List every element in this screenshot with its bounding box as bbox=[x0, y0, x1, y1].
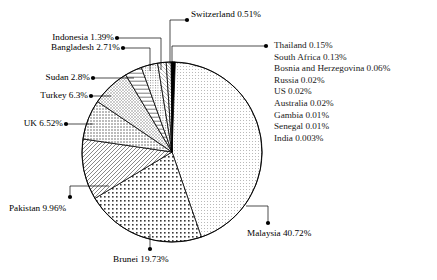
pie-slices bbox=[82, 62, 262, 242]
callout-label-switzerland: Switzerland 0.51% bbox=[191, 9, 261, 20]
leader-switzerland bbox=[170, 20, 186, 64]
small-slice-label-list: Thailand 0.15% South Africa 0.13% Bosnia… bbox=[274, 40, 390, 144]
leader-smalllist bbox=[172, 46, 265, 62]
pie-chart-figure: Switzerland 0.51% Indonesia 1.39% Bangla… bbox=[0, 0, 437, 280]
small-slice-label-india: India 0.003% bbox=[274, 133, 390, 145]
dot-turkey bbox=[89, 94, 93, 98]
small-slice-label-thailand: Thailand 0.15% bbox=[274, 40, 390, 52]
callout-label-malaysia: Malaysia 40.72% bbox=[247, 228, 311, 239]
dot-bangladesh bbox=[121, 46, 125, 50]
callout-label-bangladesh: Bangladesh 2.71% bbox=[0, 42, 120, 53]
dot-switzerland bbox=[185, 18, 189, 22]
callout-label-uk: UK 6.52% bbox=[0, 118, 63, 129]
dot-brunei bbox=[148, 247, 152, 251]
dot-uk bbox=[64, 122, 68, 126]
small-slice-label-australia: Australia 0.02% bbox=[274, 98, 390, 110]
dot-malaysia bbox=[266, 221, 270, 225]
small-slice-label-bosnia-and-herzegovina: Bosnia and Herzegovina 0.06% bbox=[274, 63, 390, 75]
dot-sudan bbox=[91, 76, 95, 80]
dot-indonesia bbox=[115, 36, 119, 40]
small-slice-label-gambia: Gambia 0.01% bbox=[274, 110, 390, 122]
callout-label-sudan: Sudan 2.8% bbox=[0, 72, 90, 83]
dot-smalllist bbox=[264, 44, 268, 48]
small-slice-label-south-africa: South Africa 0.13% bbox=[274, 52, 390, 64]
dot-pakistan bbox=[68, 195, 72, 199]
callout-label-pakistan: Pakistan 9.96% bbox=[9, 203, 66, 214]
small-slice-label-senegal: Senegal 0.01% bbox=[274, 121, 390, 133]
callout-label-brunei: Brunei 19.73% bbox=[113, 254, 169, 265]
leader-malaysia bbox=[246, 206, 268, 222]
callout-label-turkey: Turkey 6.3% bbox=[0, 90, 88, 101]
small-slice-label-us: US 0.02% bbox=[274, 86, 390, 98]
small-slice-label-russia: Russia 0.02% bbox=[274, 75, 390, 87]
